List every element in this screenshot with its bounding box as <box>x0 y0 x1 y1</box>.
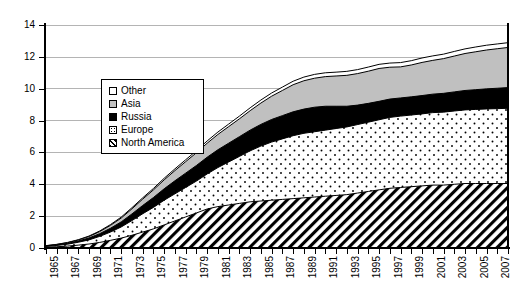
y-tick <box>39 89 45 90</box>
x-tick-label: 1975 <box>157 256 167 278</box>
x-tick <box>67 249 68 254</box>
x-tick <box>121 249 122 254</box>
x-tick-label: 1973 <box>136 256 146 278</box>
x-tick <box>401 249 402 254</box>
x-tick-label: 1971 <box>114 256 124 278</box>
gray-square-icon <box>109 100 117 108</box>
legend-item-north-america: North America <box>109 136 198 149</box>
y-tick <box>39 216 45 217</box>
y-tick-label: 0 <box>7 243 35 253</box>
x-tick <box>164 249 165 254</box>
x-tick <box>476 249 477 254</box>
x-tick <box>325 249 326 254</box>
x-tick <box>282 249 283 254</box>
x-tick <box>46 249 47 254</box>
x-tick <box>422 249 423 254</box>
y-tick <box>39 248 45 249</box>
x-tick <box>358 249 359 254</box>
y-tick-label: 4 <box>7 179 35 189</box>
legend: Other Asia Russia Europe North America <box>101 79 204 154</box>
x-tick-label: 1995 <box>372 256 382 278</box>
x-tick <box>89 249 90 254</box>
y-tick <box>39 121 45 122</box>
x-tick <box>110 249 111 254</box>
legend-label-russia: Russia <box>121 112 152 122</box>
y-tick <box>39 184 45 185</box>
white-square-icon <box>109 87 117 95</box>
x-tick <box>315 249 316 254</box>
x-tick <box>143 249 144 254</box>
legend-label-asia: Asia <box>121 99 140 109</box>
x-tick-label: 1997 <box>394 256 404 278</box>
x-tick <box>207 249 208 254</box>
x-tick <box>196 249 197 254</box>
y-tick-label: 10 <box>7 84 35 94</box>
x-tick-label: 2007 <box>501 256 511 278</box>
x-tick-label: 1969 <box>93 256 103 278</box>
x-tick <box>250 249 251 254</box>
x-tick <box>390 249 391 254</box>
x-tick-label: 1965 <box>50 256 60 278</box>
x-tick <box>433 249 434 254</box>
legend-item-other: Other <box>109 84 198 97</box>
x-axis-line <box>44 247 510 249</box>
x-tick <box>347 249 348 254</box>
x-tick-label: 1967 <box>71 256 81 278</box>
dotted-square-icon <box>109 126 117 134</box>
x-tick <box>379 249 380 254</box>
x-tick <box>132 249 133 254</box>
x-tick <box>153 249 154 254</box>
y-tick <box>39 25 45 26</box>
y-tick-label: 2 <box>7 211 35 221</box>
x-tick-label: 1987 <box>286 256 296 278</box>
x-tick <box>261 249 262 254</box>
x-tick-label: 2001 <box>437 256 447 278</box>
y-tick <box>39 152 45 153</box>
x-tick <box>272 249 273 254</box>
x-tick-label: 1989 <box>308 256 318 278</box>
x-tick <box>411 249 412 254</box>
x-tick <box>239 249 240 254</box>
x-tick-label: 2005 <box>480 256 490 278</box>
x-tick <box>57 249 58 254</box>
x-tick-label: 2003 <box>458 256 468 278</box>
x-tick <box>229 249 230 254</box>
x-tick-label: 1979 <box>200 256 210 278</box>
x-tick <box>100 249 101 254</box>
legend-label-other: Other <box>121 86 146 96</box>
plot-right-border <box>507 23 509 249</box>
x-tick <box>186 249 187 254</box>
x-tick <box>487 249 488 254</box>
x-tick-label: 1999 <box>415 256 425 278</box>
y-tick-label: 14 <box>7 20 35 30</box>
x-tick <box>508 249 509 254</box>
x-tick <box>368 249 369 254</box>
x-tick <box>78 249 79 254</box>
legend-item-asia: Asia <box>109 97 198 110</box>
legend-item-europe: Europe <box>109 123 198 136</box>
x-tick <box>454 249 455 254</box>
x-tick <box>444 249 445 254</box>
x-tick <box>304 249 305 254</box>
y-tick-label: 8 <box>7 116 35 126</box>
x-tick-label: 1991 <box>329 256 339 278</box>
x-tick-label: 1983 <box>243 256 253 278</box>
stacked-area-chart: 02468101214 1965196719691971197319751977… <box>0 0 532 303</box>
x-tick <box>175 249 176 254</box>
x-tick-label: 1977 <box>179 256 189 278</box>
x-tick-label: 1985 <box>265 256 275 278</box>
x-tick <box>336 249 337 254</box>
x-tick-label: 1993 <box>351 256 361 278</box>
legend-label-north-america: North America <box>121 138 184 148</box>
x-tick <box>465 249 466 254</box>
x-tick <box>218 249 219 254</box>
x-tick-label: 1981 <box>222 256 232 278</box>
legend-item-russia: Russia <box>109 110 198 123</box>
legend-label-europe: Europe <box>121 125 153 135</box>
y-tick-label: 6 <box>7 147 35 157</box>
y-tick <box>39 57 45 58</box>
black-square-icon <box>109 113 117 121</box>
hatched-square-icon <box>109 139 117 147</box>
y-tick-label: 12 <box>7 52 35 62</box>
x-tick <box>293 249 294 254</box>
